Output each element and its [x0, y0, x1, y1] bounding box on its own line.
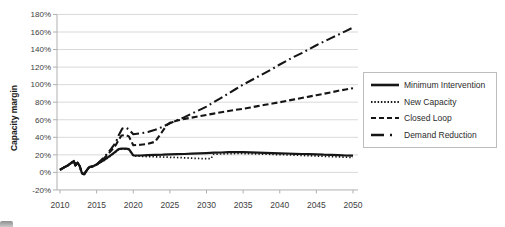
legend-item-new-capacity: New Capacity — [371, 97, 494, 107]
dashed-line-icon — [371, 115, 399, 121]
y-tick-label: 120% — [31, 63, 51, 72]
x-tick-label: 2050 — [344, 200, 363, 210]
x-tick-label: 2025 — [160, 200, 179, 210]
x-tick-label: 2015 — [87, 200, 106, 210]
y-tick-label: 60% — [35, 116, 51, 125]
y-tick-label: 20% — [35, 151, 51, 160]
legend-item-minimum-intervention: Minimum Intervention — [371, 80, 494, 90]
solid-line-icon — [371, 82, 399, 88]
x-tick-label: 2020 — [124, 200, 143, 210]
legend-item-closed-loop: Closed Loop — [371, 113, 494, 123]
dash-dot-line-icon — [371, 132, 399, 138]
x-tick-label: 2010 — [51, 200, 70, 210]
y-tick-label: 180% — [31, 10, 51, 19]
dotted-line-icon — [371, 99, 399, 105]
y-tick-label: 100% — [31, 80, 51, 89]
x-tick-label: 2045 — [307, 200, 326, 210]
y-tick-label: -20% — [32, 186, 51, 195]
chart-legend: Minimum Intervention New Capacity Closed… — [363, 72, 497, 148]
x-tick-label: 2035 — [234, 200, 253, 210]
y-tick-label: 80% — [35, 98, 51, 107]
y-tick-label: 140% — [31, 45, 51, 54]
x-tick-label: 2040 — [270, 200, 289, 210]
legend-label: Demand Reduction — [404, 130, 477, 140]
legend-label: Closed Loop — [404, 113, 452, 123]
partial-cropped-icon — [0, 221, 13, 227]
y-tick-label: 160% — [31, 28, 51, 37]
legend-label: New Capacity — [404, 97, 456, 107]
chart-page: { "chart_data": { "type": "line", "ylabe… — [0, 0, 505, 227]
legend-item-demand-reduction: Demand Reduction — [371, 130, 494, 140]
x-tick-label: 2030 — [197, 200, 216, 210]
y-tick-label: 0% — [39, 168, 51, 177]
y-tick-label: 40% — [35, 133, 51, 142]
legend-label: Minimum Intervention — [404, 80, 485, 90]
